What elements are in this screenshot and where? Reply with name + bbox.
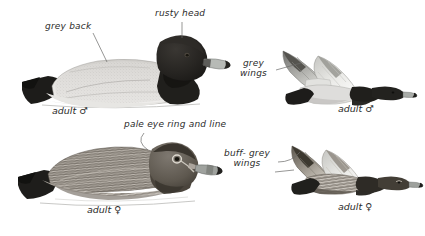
male-eye-pupil bbox=[186, 54, 189, 57]
annotation-rusty-head: rusty head bbox=[155, 8, 205, 18]
annotation-buff-grey-wings: buff- grey wings bbox=[224, 148, 270, 168]
annotation-grey-back: grey back bbox=[45, 21, 91, 31]
caption-adult-female-swimming: adult ♀ bbox=[87, 204, 121, 215]
annotation-grey-wings: grey wings bbox=[240, 58, 267, 78]
caption-adult-male-swimming: adult ♂ bbox=[52, 105, 88, 116]
female-bill-band bbox=[206, 165, 214, 175]
caption-adult-male-flying: adult ♂ bbox=[338, 103, 374, 114]
female-fly-eye bbox=[398, 181, 401, 183]
caption-adult-female-flying: adult ♀ bbox=[338, 201, 372, 212]
female-eye bbox=[175, 157, 180, 161]
male-fly-eye bbox=[392, 91, 395, 93]
annotation-pale-eye-ring-and-line: pale eye ring and line bbox=[124, 119, 226, 129]
